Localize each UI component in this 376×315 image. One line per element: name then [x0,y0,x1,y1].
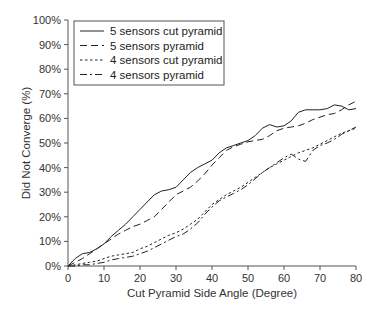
y-tick-label: 60% [39,112,61,124]
y-tick-label: 20% [39,211,61,223]
x-tick-label: 80 [350,272,362,284]
y-tick-label: 80% [39,63,61,75]
x-tick-label: 20 [134,272,146,284]
y-axis-label: Did Not Converge (%) [20,87,32,200]
y-tick-label: 0% [45,260,61,272]
legend: 5 sensors cut pyramid5 sensors pyramid4 … [74,21,224,85]
legend-label: 5 sensors cut pyramid [110,25,223,37]
legend-label: 4 sensors cut pyramid [110,54,223,66]
y-tick-label: 40% [39,162,61,174]
y-tick-label: 30% [39,186,61,198]
x-axis-label: Cut Pyramid Side Angle (Degree) [127,287,297,299]
x-tick-label: 70 [314,272,326,284]
legend-label: 4 sensors pyramid [110,69,204,81]
y-tick-label: 50% [39,137,61,149]
legend-label: 5 sensors pyramid [110,40,204,52]
y-tick-label: 10% [39,235,61,247]
x-tick-label: 50 [242,272,254,284]
x-tick-label: 0 [65,272,71,284]
x-tick-label: 10 [98,272,110,284]
x-tick-label: 30 [170,272,182,284]
y-tick-label: 90% [39,39,61,51]
line-chart: 0%10%20%30%40%50%60%70%80%90%100%0102030… [0,0,376,315]
series-line-1 [68,101,356,266]
x-tick-label: 60 [278,272,290,284]
series-line-0 [68,105,356,266]
y-tick-label: 70% [39,88,61,100]
x-tick-label: 40 [206,272,218,284]
data-series [68,101,356,266]
y-tick-label: 100% [33,14,61,26]
series-line-2 [68,128,356,266]
